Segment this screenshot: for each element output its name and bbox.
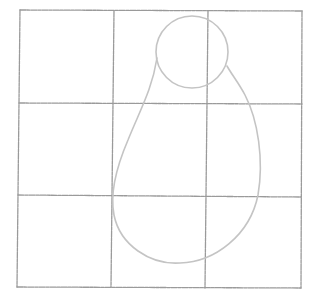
grid-border-top [20, 10, 302, 11]
pear-body-outline [113, 58, 261, 263]
sketch-canvas: Pencil sketch of a 3x3 grid with a pear-… [0, 0, 315, 298]
pear-head-circle [156, 16, 228, 88]
grid-horizontal-line-1 [19, 103, 302, 104]
grid-border-left [17, 10, 20, 287]
grid-vertical-line-1 [111, 11, 114, 287]
grid-drawing [0, 0, 315, 298]
grid-border-right [301, 11, 302, 288]
grid-vertical-line-2 [205, 11, 208, 288]
grid-border-bottom [17, 287, 301, 288]
